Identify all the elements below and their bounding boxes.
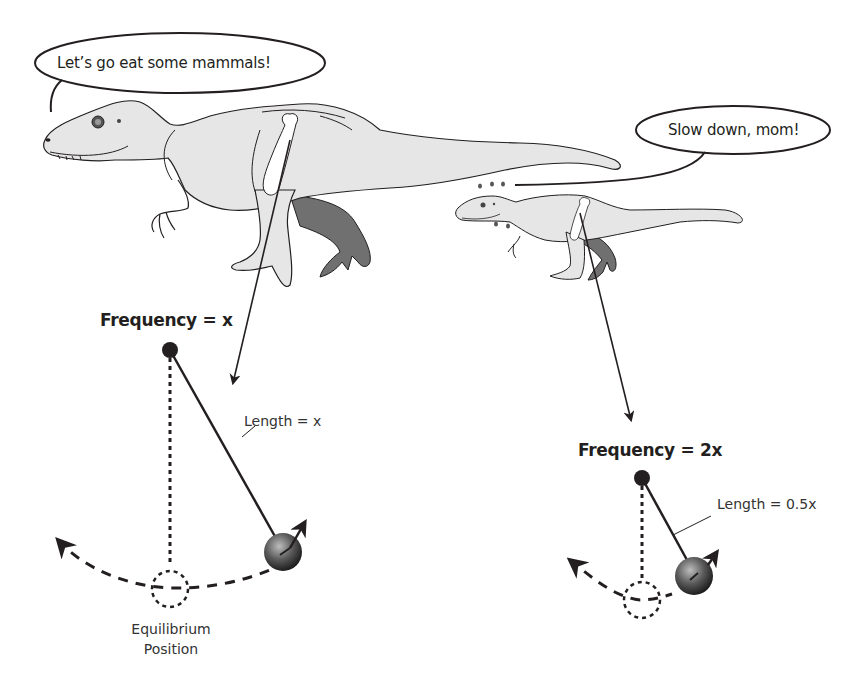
- diagram-canvas: [0, 0, 868, 688]
- large-frequency-label: Frequency = x: [100, 310, 233, 330]
- mother-speech-bubble: [35, 33, 325, 112]
- large-pendulum: [58, 342, 305, 607]
- baby-speech-bubble: [515, 106, 830, 185]
- equilibrium-label-line2: Position: [111, 639, 231, 659]
- small-pendulum: [570, 470, 717, 618]
- baby-speech-text: Slow down, mom!: [668, 121, 799, 139]
- mother-speech-text: Let’s go eat some mammals!: [57, 54, 271, 72]
- equilibrium-label-line1: Equilibrium: [111, 619, 231, 639]
- large-length-label: Length = x: [244, 413, 321, 429]
- mother-trex-illustration: [44, 101, 621, 287]
- baby-trex-illustration: [456, 182, 743, 281]
- equilibrium-position-label: Equilibrium Position: [111, 619, 231, 659]
- small-frequency-label: Frequency = 2x: [578, 440, 722, 460]
- small-length-label: Length = 0.5x: [717, 496, 816, 512]
